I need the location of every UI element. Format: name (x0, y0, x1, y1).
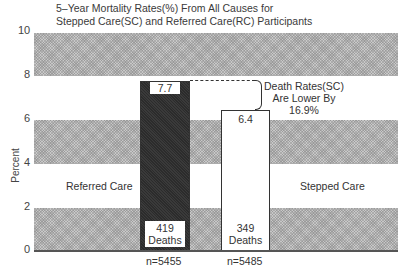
x-axis-baseline (34, 250, 398, 252)
band-0-2 (34, 208, 398, 251)
title-line-1: 5–Year Mortality Rates(%) From All Cause… (56, 2, 312, 15)
annotation-line-3: 16.9% (264, 104, 344, 116)
ytick-10: 10 (18, 24, 30, 36)
y-axis-label: Percent (10, 148, 21, 182)
ytick-6: 6 (18, 112, 30, 124)
deaths-label-stepped-care: 349 Deaths (221, 222, 270, 246)
title-line-2: Stepped Care(SC) and Referred Care(RC) P… (56, 15, 312, 28)
annotation-death-rates: Death Rates(SC) Are Lower By 16.9% (264, 80, 344, 116)
annotation-line-2: Are Lower By (264, 92, 344, 104)
ytick-2: 2 (18, 200, 30, 212)
annotation-line-1: Death Rates(SC) (264, 80, 344, 92)
ytick-8: 8 (18, 68, 30, 80)
deaths-count: 419 (145, 222, 185, 234)
deaths-count: 349 (221, 222, 270, 234)
deaths-text: Deaths (145, 234, 185, 246)
comparison-brace (255, 80, 262, 110)
band-8-10 (34, 33, 398, 76)
deaths-label-referred-care: 419 Deaths (145, 221, 185, 247)
band-4-6 (34, 120, 398, 164)
n-label-stepped-care: n=5485 (227, 255, 262, 267)
ytick-0: 0 (18, 243, 30, 255)
category-label-referred-care: Referred Care (66, 180, 133, 192)
chart-title: 5–Year Mortality Rates(%) From All Cause… (56, 2, 312, 28)
category-label-stepped-care: Stepped Care (300, 180, 365, 192)
deaths-text: Deaths (221, 234, 270, 246)
comparison-dashed-line (190, 80, 255, 81)
value-label-stepped-care: 6.4 (221, 113, 270, 125)
value-label-referred-care: 7.7 (150, 82, 180, 94)
n-label-referred-care: n=5455 (146, 255, 181, 267)
